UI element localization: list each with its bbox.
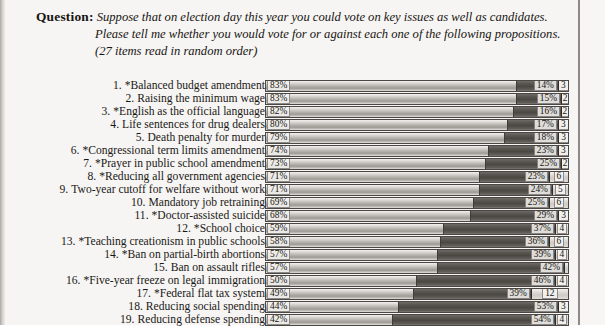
bar-segment-for: 79%: [266, 133, 505, 143]
bar-value-dontknow: 2: [562, 107, 568, 117]
stacked-bar: 73%25%2: [265, 158, 569, 170]
chart-row-text: *Prayer in public school amendment: [95, 157, 265, 170]
bar-segment-dontknow: 5: [553, 185, 568, 195]
chart-row-text: Mandatory job retraining: [148, 196, 265, 209]
chart-row-number: 10.: [129, 196, 145, 209]
chart-row: 1.*Balanced budget amendment83%14%3: [0, 79, 578, 92]
bar-value-for: 74%: [267, 146, 290, 156]
chart-row-label: 19.Reducing defense spending: [119, 313, 266, 326]
bar-segment-against: 18%: [505, 133, 559, 143]
chart-row-label: 11.*Doctor-assisted suicide: [133, 209, 265, 222]
bar-value-against: 15%: [537, 94, 560, 104]
bar-segment-against: 16%: [514, 107, 562, 117]
bar-value-dontknow: 3: [559, 211, 568, 221]
bar-segment-dontknow: 3: [559, 120, 568, 130]
stacked-bar: 50%46%4: [265, 275, 569, 287]
chart-row-label: 16.*Five-year freeze on legal immigratio…: [64, 274, 265, 287]
bar-segment-dontknow: 2: [562, 159, 568, 169]
chart-row-label: 14.*Ban on partial-birth abortions: [103, 248, 265, 261]
chart-row-text: *Balanced budget amendment: [125, 79, 265, 92]
bar-value-against: 25%: [525, 198, 548, 208]
chart-row: 19.Reducing defense spending42%54%4: [0, 313, 578, 326]
chart-row-label: 18.Reducing social spending: [127, 300, 265, 313]
stacked-bar: 59%37%4: [265, 223, 569, 235]
bar-value-for: 82%: [267, 107, 290, 117]
chart-row-label: 1.*Balanced budget amendment: [106, 79, 265, 92]
chart-row-number: 6.: [63, 144, 79, 157]
bar-segment-dontknow: 3: [559, 146, 568, 156]
chart-row-text: *Ban on partial-birth abortions: [122, 248, 265, 261]
stacked-bar-chart: 1.*Balanced budget amendment83%14%32.Rai…: [0, 79, 578, 326]
bar-segment-against: 17%: [508, 120, 559, 130]
bar-value-for: 57%: [267, 263, 290, 273]
question-line-2: Please tell me whether you would vote fo…: [36, 26, 566, 43]
chart-row: 7.*Prayer in public school amendment73%2…: [0, 157, 578, 170]
chart-row-number: 11.: [133, 209, 149, 222]
bar-segment-dontknow: 4: [556, 224, 568, 234]
chart-row-number: 9.: [52, 183, 68, 196]
bar-segment-against: 29%: [471, 211, 559, 221]
bar-value-for: 57%: [267, 250, 290, 260]
bar-value-dontknow: 4: [557, 315, 568, 325]
chart-row-text: Ban on assault rifles: [171, 261, 265, 274]
bar-segment-for: 82%: [266, 107, 514, 117]
chart-row: 16.*Five-year freeze on legal immigratio…: [0, 274, 578, 287]
chart-row: 15.Ban on assault rifles57%42%1: [0, 261, 578, 274]
bar-value-for: 59%: [267, 224, 290, 234]
bar-segment-against: 37%: [444, 224, 556, 234]
bar-segment-against: 25%: [486, 159, 562, 169]
chart-row-number: 2.: [118, 92, 134, 105]
bar-segment-against: 39%: [414, 289, 532, 299]
chart-row-text: *Doctor-assisted suicide: [152, 209, 265, 222]
stacked-bar: 69%25%6: [265, 197, 569, 209]
chart-row-text: Two-year cutoff for welfare without work: [71, 183, 265, 196]
chart-row-label: 3.*English as the official language: [94, 105, 265, 118]
chart-row: 10.Mandatory job retraining69%25%6: [0, 196, 578, 209]
chart-row-text: *Congressional term limits amendment: [82, 144, 265, 157]
chart-row-number: 17.: [135, 287, 151, 300]
chart-row: 12.*School choice59%37%4: [0, 222, 578, 235]
bar-value-for: 80%: [267, 120, 290, 130]
bar-segment-dontknow: 3: [559, 302, 568, 312]
bar-segment-dontknow: 2: [562, 94, 568, 104]
bar-segment-against: 36%: [441, 237, 550, 247]
chart-row-text: Death penalty for murder: [148, 131, 266, 144]
chart-row: 14.*Ban on partial-birth abortions57%39%…: [0, 248, 578, 261]
bar-value-dontknow: 6: [554, 237, 565, 247]
chart-row-number: 18.: [127, 300, 143, 313]
bar-value-against: 39%: [531, 250, 554, 260]
bar-value-for: 68%: [267, 211, 290, 221]
chart-row-number: 12.: [175, 222, 191, 235]
chart-row: 9.Two-year cutoff for welfare without wo…: [0, 183, 578, 196]
bar-value-for: 79%: [267, 133, 290, 143]
bar-value-against: 25%: [537, 159, 560, 169]
chart-row: 17.*Federal flat tax system49%39%12: [0, 287, 578, 300]
chart-row-text: *Federal flat tax system: [154, 287, 265, 300]
bar-value-against: 23%: [534, 146, 557, 156]
bar-value-against: 17%: [534, 120, 557, 130]
chart-row-number: 16.: [64, 274, 80, 287]
bar-value-dontknow: 5: [555, 185, 566, 195]
bar-segment-for: 57%: [266, 250, 438, 260]
bar-segment-dontknow: 12: [532, 289, 568, 299]
stacked-bar: 74%23%3: [265, 145, 569, 157]
chart-row-label: 7.*Prayer in public school amendment: [76, 157, 265, 170]
bar-value-against: 46%: [531, 276, 554, 286]
stacked-bar: 71%24%5: [265, 184, 569, 196]
bar-value-dontknow: 3: [559, 302, 568, 312]
bar-segment-for: 71%: [266, 185, 480, 195]
chart-row-text: *English as the official language: [113, 105, 265, 118]
chart-row-number: 3.: [94, 105, 110, 118]
question-line-3: (27 items read in random order): [36, 43, 566, 60]
stacked-bar: 68%29%3: [265, 210, 569, 222]
stacked-bar: 80%17%3: [265, 119, 569, 131]
bar-segment-for: 44%: [266, 302, 399, 312]
bar-value-against: 29%: [534, 211, 557, 221]
bar-value-dontknow: 2: [562, 94, 568, 104]
bar-value-against: 54%: [531, 315, 554, 325]
bar-segment-dontknow: 3: [559, 81, 568, 91]
bar-segment-against: 42%: [438, 263, 565, 273]
chart-row-label: 13.*Teaching creationism in public schoo…: [59, 235, 265, 248]
chart-row-label: 10.Mandatory job retraining: [129, 196, 265, 209]
